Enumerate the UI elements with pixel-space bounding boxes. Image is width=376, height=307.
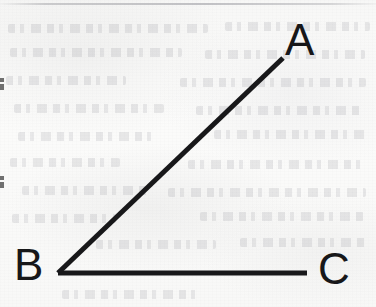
scanned-geometry-diagram: A B C <box>0 0 376 307</box>
vertex-label-a: A <box>285 18 314 62</box>
vertex-label-b: B <box>14 243 43 287</box>
vertex-label-c: C <box>318 247 350 291</box>
ray-b-to-a <box>58 58 283 273</box>
